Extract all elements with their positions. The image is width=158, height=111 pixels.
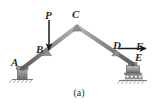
ground-hatch-right: [118, 81, 148, 85]
joint-label-b: B: [36, 44, 43, 55]
figure-caption: (a): [0, 88, 158, 98]
joint-label-a: A: [11, 57, 18, 68]
joint-label-c: C: [72, 9, 79, 20]
ground-hatch-left: [10, 80, 34, 84]
truss-figure: A B C D E P F (a): [0, 0, 158, 111]
joint-label-e: E: [135, 52, 142, 63]
force-label-p: P: [45, 10, 52, 21]
joint-label-d: D: [113, 40, 121, 51]
member-c-e: [77, 27, 133, 65]
roller-wheels: [126, 75, 142, 79]
force-label-f: F: [136, 41, 143, 52]
